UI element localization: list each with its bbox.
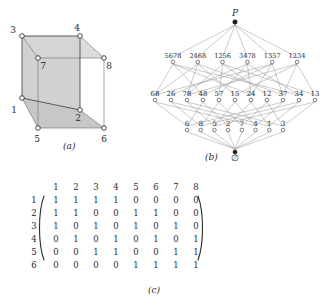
hasse-node-label-quad: 1357 <box>264 52 281 60</box>
matrix-column-header: 8 <box>193 182 198 192</box>
matrix-cell: 1 <box>93 195 98 205</box>
matrix-bracket-left <box>40 196 45 260</box>
matrix-cell: 1 <box>113 195 118 205</box>
cube-vertex <box>36 126 41 131</box>
matrix-cell: 1 <box>133 208 138 218</box>
panel-a-cube: 3 4 7 8 1 2 5 6 <box>0 6 150 156</box>
matrix-cell: 1 <box>113 234 118 244</box>
matrix-cells: 1111000011001100101010100101010100110011… <box>53 195 198 270</box>
cube-vertex <box>20 34 25 39</box>
hasse-node-label-singleton: 5 <box>212 119 217 128</box>
matrix-cell: 1 <box>53 221 58 231</box>
matrix-cell: 0 <box>73 221 78 231</box>
matrix-cell: 0 <box>153 195 158 205</box>
matrix-cell: 0 <box>173 208 178 218</box>
cube-svg: 3 4 7 8 1 2 5 6 <box>0 6 150 156</box>
matrix-row-header: 6 <box>31 260 36 270</box>
cube-vertex <box>102 56 107 61</box>
matrix-cell: 1 <box>153 234 158 244</box>
matrix-cell: 1 <box>193 247 198 257</box>
panel-c-matrix: 12345678 123456 111100001100110010101010… <box>8 180 238 280</box>
matrix-cell: 1 <box>73 195 78 205</box>
cube-vertex <box>102 126 107 131</box>
matrix-column-header: 7 <box>173 182 178 192</box>
matrix-column-header: 1 <box>53 182 58 192</box>
cube-label-8: 8 <box>106 61 112 71</box>
cube-label-6: 6 <box>101 134 107 144</box>
matrix-column-headers: 12345678 <box>53 182 198 192</box>
matrix-row-header: 3 <box>31 221 36 231</box>
matrix-cell: 0 <box>193 221 198 231</box>
matrix-cell: 1 <box>173 247 178 257</box>
matrix-cell: 0 <box>93 234 98 244</box>
matrix-cell: 1 <box>53 195 58 205</box>
hasse-node-label-quad: 5678 <box>165 52 182 60</box>
hasse-bottom-label: ∅ <box>231 153 239 163</box>
caption-b: (b) <box>205 152 218 162</box>
hasse-node-label-singleton: 3 <box>281 119 286 128</box>
matrix-column-header: 2 <box>73 182 78 192</box>
hasse-node-label-pair: 37 <box>279 90 288 98</box>
hasse-node-label-pair: 24 <box>247 90 256 98</box>
matrix-cell: 1 <box>153 208 158 218</box>
matrix-row-header: 4 <box>31 234 36 244</box>
hasse-node-label-singleton: 2 <box>226 119 231 128</box>
matrix-cell: 0 <box>73 247 78 257</box>
matrix-cell: 0 <box>193 208 198 218</box>
hasse-node-label-pair: 57 <box>215 90 224 98</box>
hasse-node-label-quad: 1234 <box>289 52 306 60</box>
matrix-cell: 0 <box>113 260 118 270</box>
hasse-node-label-quad: 3478 <box>239 52 256 60</box>
hasse-nodes <box>153 20 317 154</box>
matrix-cell: 1 <box>73 208 78 218</box>
caption-a: (a) <box>63 141 75 151</box>
matrix-row-header: 2 <box>31 208 36 218</box>
matrix-cell: 0 <box>53 247 58 257</box>
matrix-cell: 0 <box>153 221 158 231</box>
panel-b-hasse: P567824681256347813571234682678485715241… <box>148 0 322 168</box>
hasse-node-label-pair: 78 <box>183 90 192 98</box>
matrix-cell: 0 <box>173 195 178 205</box>
hasse-node-label-quad: 1256 <box>214 52 231 60</box>
matrix-cell: 0 <box>133 195 138 205</box>
matrix-cell: 0 <box>113 221 118 231</box>
cube-vertex <box>20 96 25 101</box>
cube-label-4: 4 <box>74 23 80 33</box>
matrix-cell: 0 <box>153 247 158 257</box>
hasse-svg: P567824681256347813571234682678485715241… <box>148 0 322 168</box>
matrix-cell: 1 <box>133 221 138 231</box>
hasse-node-label-pair: 26 <box>167 90 176 98</box>
matrix-cell: 1 <box>173 260 178 270</box>
matrix-cell: 1 <box>193 234 198 244</box>
matrix-column-header: 3 <box>93 182 98 192</box>
cube-label-5: 5 <box>34 134 40 144</box>
matrix-cell: 0 <box>73 260 78 270</box>
matrix-column-header: 4 <box>113 182 118 192</box>
matrix-cell: 1 <box>93 247 98 257</box>
matrix-row-headers: 123456 <box>31 195 36 270</box>
hasse-node-label-singleton: 6 <box>185 119 190 128</box>
hasse-labels: P567824681256347813571234682678485715241… <box>151 8 320 163</box>
matrix-cell: 1 <box>153 260 158 270</box>
cube-vertex <box>78 34 83 39</box>
cube-label-1: 1 <box>11 105 17 115</box>
matrix-cell: 1 <box>193 260 198 270</box>
matrix-cell: 1 <box>73 234 78 244</box>
matrix-cell: 0 <box>133 234 138 244</box>
hasse-node-label-singleton: 8 <box>198 119 203 128</box>
hasse-node-label-pair: 13 <box>311 90 320 98</box>
hasse-node-label-pair: 68 <box>151 90 160 98</box>
matrix-cell: 0 <box>113 208 118 218</box>
matrix-svg: 12345678 123456 111100001100110010101010… <box>8 180 238 280</box>
cube-vertex <box>36 56 41 61</box>
cube-label-2: 2 <box>75 113 81 123</box>
hasse-node-label-quad: 2468 <box>189 52 206 60</box>
matrix-row-header: 5 <box>31 247 36 257</box>
matrix-cell: 1 <box>113 247 118 257</box>
hasse-top-label: P <box>231 8 239 18</box>
hasse-node-label-pair: 48 <box>199 90 208 98</box>
matrix-cell: 1 <box>53 208 58 218</box>
matrix-cell: 0 <box>93 208 98 218</box>
matrix-cell: 0 <box>53 260 58 270</box>
cube-label-3: 3 <box>10 25 16 35</box>
